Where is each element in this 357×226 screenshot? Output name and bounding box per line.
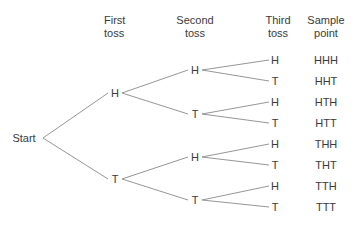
edge-start-t: [43, 138, 108, 179]
header-second-toss: Second toss: [175, 14, 215, 39]
header-first-toss: First toss: [104, 14, 125, 39]
edge-t-t: [122, 179, 188, 200]
edge-start-h: [43, 93, 108, 138]
sample-point: HHT: [315, 75, 338, 87]
node-third-htt: T: [272, 117, 279, 129]
node-second-hh: H: [191, 64, 199, 76]
node-first-h: H: [111, 87, 119, 99]
sample-point: TTH: [315, 180, 336, 192]
header-sample-point: Sample point: [305, 14, 347, 39]
header-third-toss: Third toss: [263, 14, 293, 39]
sample-point: HTH: [315, 96, 338, 108]
sample-point: THH: [315, 138, 338, 150]
node-third-tht: T: [272, 159, 279, 171]
edge-h-t: [122, 93, 188, 114]
node-first-t: T: [112, 173, 119, 185]
node-third-hhh: H: [271, 54, 279, 66]
node-third-tth: H: [271, 180, 279, 192]
node-third-hht: T: [272, 75, 279, 87]
edge-h-h: [122, 70, 188, 93]
node-second-th: H: [191, 151, 199, 163]
sample-point: TTT: [316, 201, 336, 213]
sample-point: HTT: [315, 117, 336, 129]
node-third-thh: H: [271, 138, 279, 150]
node-third-hth: H: [271, 96, 279, 108]
node-second-tt: T: [192, 194, 199, 206]
edge-t-h: [122, 157, 188, 179]
sample-point: HHH: [314, 54, 338, 66]
node-third-ttt: T: [272, 201, 279, 213]
node-start: Start: [12, 132, 35, 144]
node-second-ht: T: [192, 108, 199, 120]
sample-point: THT: [315, 159, 336, 171]
